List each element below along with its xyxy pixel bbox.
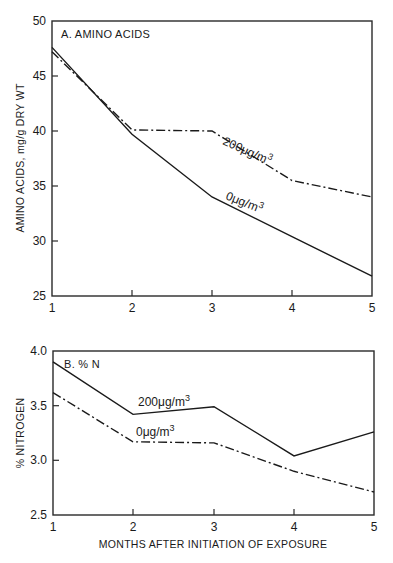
panel-a-xtick-2: 2 [129, 301, 136, 315]
panel-a-ytick-30: 30 [33, 234, 47, 248]
panel-b-y-ticks: 4.0 3.5 3.0 2.5 [30, 344, 59, 522]
panel-b-xtick-2: 2 [130, 520, 137, 534]
panel-a-series-200ug [52, 52, 372, 197]
panel-b-label-200ug: 200μg/m3 [138, 393, 190, 409]
panel-b-ytick-2-5: 2.5 [30, 508, 47, 522]
panel-b-xtick-5: 5 [371, 520, 378, 534]
panel-b-percent-n: 4.0 3.5 3.0 2.5 1 2 3 4 5 MONTHS AFTER I… [14, 344, 378, 550]
panel-a-label-200ug: 200μg/m3 [221, 132, 275, 168]
panel-a-ytick-25: 25 [33, 289, 47, 303]
panel-a-xtick-1: 1 [49, 301, 56, 315]
panel-b-xtick-3: 3 [211, 520, 218, 534]
panel-a-ytick-35: 35 [33, 179, 47, 193]
panel-a-series-0ug [52, 47, 372, 276]
panel-a-ytick-50: 50 [33, 14, 47, 28]
panel-a-amino-acids: 50 45 40 35 30 25 1 2 3 4 5 AMINO ACIDS,… [14, 14, 376, 315]
panel-b-series-0ug [53, 393, 374, 492]
panel-b-x-ticks: 1 2 3 4 5 [50, 509, 378, 534]
panel-b-frame [53, 351, 374, 515]
panel-b-x-axis-label: MONTHS AFTER INITIATION OF EXPOSURE [99, 538, 328, 550]
panel-b-series-200ug [53, 362, 374, 456]
panel-a-ytick-40: 40 [33, 124, 47, 138]
panel-b-ytick-4-0: 4.0 [30, 344, 47, 358]
panel-b-label-0ug: 0μg/m3 [136, 423, 175, 439]
panel-b-ytick-3-5: 3.5 [30, 399, 47, 413]
figure: 50 45 40 35 30 25 1 2 3 4 5 AMINO ACIDS,… [0, 0, 393, 563]
panel-a-y-axis-label: AMINO ACIDS, mg/g DRY WT [14, 83, 26, 232]
panel-b-ytick-3-0: 3.0 [30, 453, 47, 467]
panel-a-xtick-4: 4 [289, 301, 296, 315]
panel-a-xtick-3: 3 [209, 301, 216, 315]
panel-b-title: B. % N [64, 358, 100, 370]
panel-b-xtick-4: 4 [291, 520, 298, 534]
panel-a-xtick-5: 5 [369, 301, 376, 315]
panel-a-x-ticks: 1 2 3 4 5 [49, 290, 376, 315]
panel-a-label-0ug: 0μg/m3 [224, 187, 266, 216]
panel-a-y-ticks: 50 45 40 35 30 25 [33, 14, 58, 303]
panel-a-frame [52, 21, 372, 296]
panel-a-ytick-45: 45 [33, 69, 47, 83]
panel-b-xtick-1: 1 [50, 520, 57, 534]
panel-a-title: A. AMINO ACIDS [61, 28, 150, 40]
panel-b-y-axis-label: % NITROGEN [14, 398, 26, 469]
